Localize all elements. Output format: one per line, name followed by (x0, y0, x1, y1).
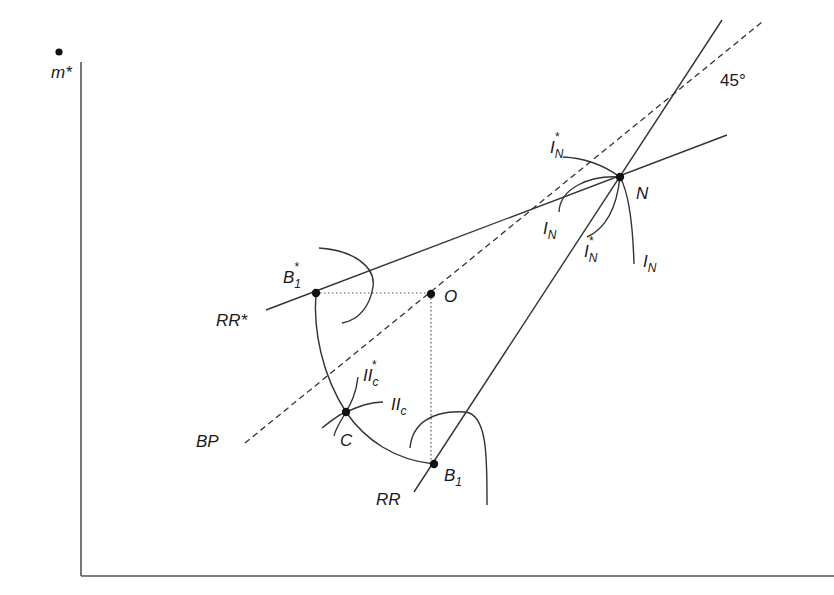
b1-star-indifference-curve (319, 248, 373, 323)
i-n-right-label: IN (643, 252, 657, 275)
b1-indifference-curve (410, 412, 487, 505)
point-n-label: N (636, 184, 649, 203)
m-star-dot (55, 48, 62, 55)
i-n-right-curve (620, 177, 634, 264)
rr-label: RR (376, 490, 401, 509)
rr-star-label: RR* (216, 311, 249, 330)
rr-star-line (266, 135, 727, 310)
point-b1-star-label: B1* (283, 260, 301, 291)
i-n-left-label: IN (543, 219, 557, 242)
point-n (616, 173, 624, 181)
edgeworth-box-diagram: m* BP 45° RR RR* IN* IN IN* IN IIc* IIc (0, 0, 834, 595)
point-b1 (430, 460, 438, 468)
point-c (342, 408, 350, 416)
angle-45-label: 45° (720, 71, 746, 90)
y-axis-label: m* (51, 63, 73, 82)
point-c-label: C (340, 431, 353, 450)
i-n-star-lower-label: IN* (584, 234, 598, 265)
point-b1-label: B1 (444, 466, 462, 489)
ii-c-star-label: IIc* (363, 358, 378, 389)
rr-line (414, 20, 722, 492)
ii-c-star-curve (334, 377, 358, 436)
bp-line (245, 22, 762, 443)
i-n-star-upper-label: IN* (550, 130, 564, 161)
ii-c-label: IIc (391, 395, 406, 418)
i-n-star-upper-curve (563, 157, 620, 177)
bp-label: BP (196, 432, 219, 451)
point-o (427, 290, 435, 298)
ii-c-curve (322, 402, 383, 428)
i-n-left-curve (559, 177, 620, 212)
point-b1-star (312, 289, 320, 297)
point-o-label: O (444, 287, 457, 306)
